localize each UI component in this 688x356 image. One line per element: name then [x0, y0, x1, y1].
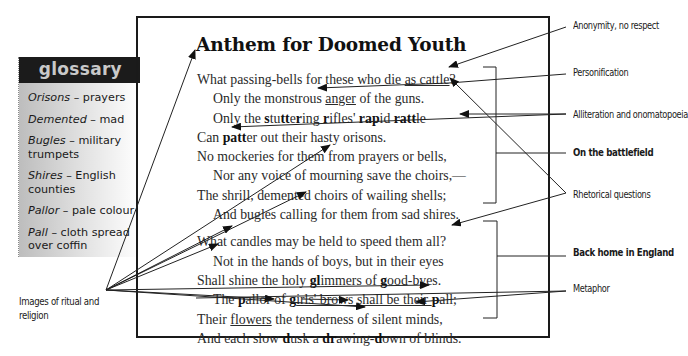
line-personification	[449, 74, 566, 83]
label-battlefield: On the battlefield	[573, 146, 653, 158]
arrow-anonymity	[449, 27, 566, 67]
label-back-home: Back home in England	[573, 246, 674, 258]
bracket-stanza-2	[483, 221, 497, 318]
bracket-stanza-1	[483, 67, 496, 203]
label-metaphor: Metaphor	[573, 283, 610, 294]
label-anonymity: Anonymity, no respect	[573, 20, 659, 31]
arrow-rhetorical-2	[452, 193, 566, 225]
label-ritual: Images of ritual and religion	[19, 294, 109, 322]
label-rhetorical: Rhetorical questions	[573, 189, 650, 200]
label-personification: Personification	[573, 67, 628, 78]
arrow-rhetorical-1	[450, 78, 566, 193]
label-alliteration: Alliteration and onomatopoeia	[573, 109, 688, 120]
arrow-ritual-title	[106, 50, 195, 290]
